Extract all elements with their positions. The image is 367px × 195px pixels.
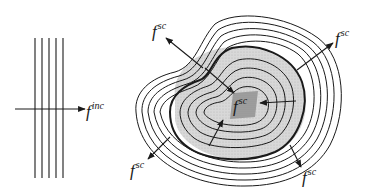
label-sup: sc [158,20,166,31]
scattered-label-center: fsc [233,96,247,115]
incident-label: finc [86,101,104,120]
incident-label-base: f [86,102,91,121]
label-base: f [302,168,307,187]
label-base: f [130,161,135,180]
label-sup: sc [341,27,349,38]
incident-wavefronts [35,38,63,178]
label-sup: sc [239,95,247,106]
label-base: f [335,29,340,48]
label-sup: sc [136,159,144,170]
label-base: f [233,97,238,116]
scattered-label-top-left: fsc [152,21,166,40]
label-base: f [152,22,157,41]
label-sup: sc [308,166,316,177]
incident-label-sup: inc [92,100,104,111]
scattered-label-bottom-left: fsc [130,160,144,179]
scattered-label-bottom-right: fsc [302,167,316,186]
scattered-label-top-right: fsc [335,28,349,47]
